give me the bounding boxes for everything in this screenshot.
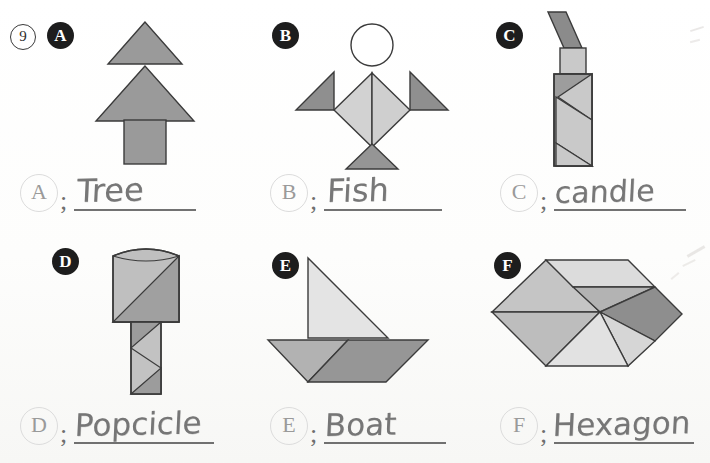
- answer-row-a: A ; Tree: [0, 162, 250, 218]
- answer-handwriting-a[interactable]: Tree: [76, 171, 145, 210]
- answer-rule-c: [554, 209, 686, 211]
- problem-cell-e: E E ; Boat: [250, 230, 480, 463]
- tangram-boat-figure: [250, 230, 480, 402]
- answer-handwriting-f[interactable]: Hexagon: [552, 404, 691, 443]
- answer-separator-d: ;: [60, 419, 67, 449]
- large-triangle-middle-shape: [96, 66, 194, 121]
- body-right-triangle-shape: [372, 73, 410, 147]
- flame-parallelogram-shape: [548, 12, 582, 48]
- answer-separator-a: ;: [60, 186, 67, 216]
- tangram-hexagon-figure: [480, 230, 710, 402]
- square-trunk-shape: [124, 120, 166, 164]
- tangram-candle-figure: [480, 0, 710, 172]
- answer-handwriting-d[interactable]: Popcicle: [74, 404, 203, 443]
- answer-separator-f: ;: [540, 419, 547, 449]
- answer-rule-f: [554, 442, 694, 444]
- answer-letter-f: F: [500, 407, 538, 445]
- tangram-fish-figure: [250, 0, 480, 172]
- answer-letter-a: A: [20, 174, 58, 212]
- problem-grid: 9 A A ; Tree B: [0, 0, 710, 463]
- answer-letter-c: C: [500, 174, 538, 212]
- worksheet-page: 9 A A ; Tree B: [0, 0, 710, 463]
- answer-rule-d: [74, 442, 214, 444]
- answer-letter-d: D: [20, 407, 58, 445]
- answer-rule-e: [324, 442, 446, 444]
- answer-letter-e: E: [270, 407, 308, 445]
- sail-triangle-shape: [308, 258, 388, 338]
- problem-cell-a: 9 A A ; Tree: [0, 0, 250, 230]
- answer-row-e: E ; Boat: [250, 395, 480, 451]
- problem-cell-f: F: [480, 230, 710, 463]
- answer-separator-e: ;: [310, 419, 317, 449]
- answer-handwriting-e[interactable]: Boat: [324, 406, 397, 443]
- problem-cell-d: D D: [0, 230, 250, 463]
- answer-row-f: F ; Hexagon: [480, 395, 710, 451]
- answer-row-c: C ; candle: [480, 162, 710, 218]
- answer-letter-b: B: [270, 174, 308, 212]
- small-triangle-top-shape: [108, 22, 182, 64]
- tangram-popsicle-figure: [0, 230, 250, 402]
- wick-square-shape: [560, 48, 586, 74]
- answer-handwriting-c[interactable]: candle: [554, 173, 656, 210]
- answer-handwriting-b[interactable]: Fish: [326, 171, 390, 210]
- answer-row-d: D ; Popcicle: [0, 395, 250, 451]
- problem-cell-c: C C ;: [480, 0, 710, 230]
- body-left-triangle-shape: [334, 73, 372, 147]
- circle-head-shape: [351, 24, 393, 66]
- answer-row-b: B ; Fish: [250, 162, 480, 218]
- right-fin-triangle-shape: [410, 72, 448, 110]
- answer-separator-c: ;: [540, 186, 547, 216]
- tangram-tree-figure: [0, 0, 250, 172]
- left-fin-triangle-shape: [296, 72, 334, 110]
- answer-separator-b: ;: [310, 186, 317, 216]
- problem-cell-b: B B ;: [250, 0, 480, 230]
